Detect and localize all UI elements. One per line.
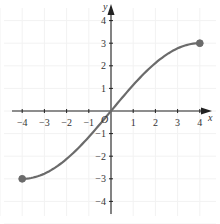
x-tick-label: 4 [197, 117, 202, 128]
x-tick-label: 1 [131, 117, 136, 128]
y-tick-label: −2 [95, 151, 106, 162]
endpoint-dot [196, 40, 203, 47]
endpoint-dot [19, 175, 26, 182]
y-tick-label: 2 [101, 60, 106, 71]
y-tick-label: 3 [101, 38, 106, 49]
y-axis-label: y [102, 1, 108, 12]
x-tick-label: −2 [61, 117, 72, 128]
x-tick-label: −4 [17, 117, 28, 128]
y-tick-label: −3 [95, 173, 106, 184]
y-tick-label: −4 [95, 196, 106, 207]
x-axis-label: x [207, 112, 213, 123]
y-tick-label: 1 [101, 83, 106, 94]
origin-label: O [101, 114, 108, 125]
x-tick-label: −1 [83, 117, 94, 128]
x-tick-label: −3 [39, 117, 50, 128]
function-graph: −4−3−2−11234−4−3−2−11234 x y O [0, 0, 220, 224]
y-tick-label: 4 [101, 15, 106, 26]
y-tick-label: −1 [95, 128, 106, 139]
x-tick-label: 3 [175, 117, 180, 128]
x-tick-label: 2 [153, 117, 158, 128]
